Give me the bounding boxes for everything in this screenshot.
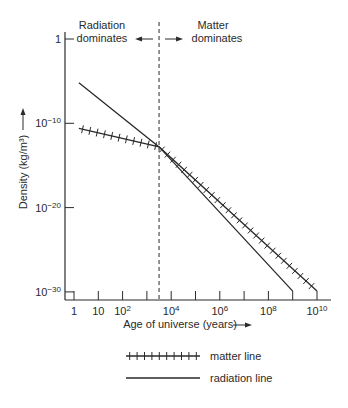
matter-line: [79, 128, 317, 291]
y-axis-arrow-icon: [21, 108, 26, 115]
radiation-line: [79, 83, 293, 291]
x-tick-label: 108: [260, 304, 277, 317]
x-axis-label: Age of universe (years): [123, 318, 237, 330]
y-axis-label: Density (kg/m³): [17, 135, 29, 210]
legend: matter lineradiation line: [126, 350, 272, 384]
y-tick-label: 10−10: [35, 116, 61, 129]
x-tick-label: 106: [211, 304, 228, 317]
axes: 1101021041061081010110−1010−2010−30: [35, 32, 331, 317]
legend-radiation-line-label: radiation line: [210, 372, 272, 384]
right-arrow-icon: [176, 37, 183, 42]
x-axis-arrow-icon: [245, 323, 252, 328]
series-group: [79, 83, 317, 291]
x-tick-label: 1010: [306, 304, 328, 317]
x-tick-label: 102: [114, 304, 131, 317]
x-tick-label: 1: [71, 305, 77, 317]
x-tick-label: 104: [163, 304, 180, 317]
matter-era-label-line1: Matter: [197, 19, 229, 31]
x-tick-label: 10: [92, 305, 104, 317]
y-tick-label: 10−30: [35, 285, 61, 298]
era-divider: RadiationdominatesMatterdominates: [77, 19, 243, 300]
chart: 1101021041061081010110−1010−2010−30 Radi…: [0, 0, 348, 408]
radiation-era-label-line1: Radiation: [79, 19, 125, 31]
matter-era-label-line2: dominates: [192, 32, 243, 44]
y-tick-label: 10−20: [35, 201, 61, 214]
legend-matter-line-label: matter line: [210, 350, 261, 362]
left-arrow-icon: [135, 37, 142, 42]
radiation-era-label-line2: dominates: [77, 32, 128, 44]
y-tick-label: 1: [55, 33, 61, 45]
